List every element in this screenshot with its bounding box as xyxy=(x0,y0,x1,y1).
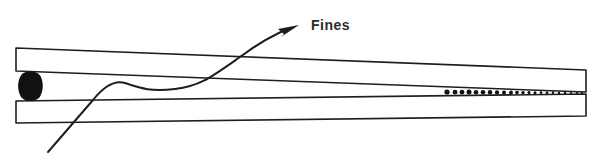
retained-particle xyxy=(18,72,43,101)
upper-plate xyxy=(16,48,586,92)
wedge-filter-diagram xyxy=(0,0,601,157)
arrowhead-icon xyxy=(278,25,299,37)
lower-plate xyxy=(16,94,586,123)
fines-label: Fines xyxy=(311,17,350,33)
flow-arrow-path xyxy=(48,28,290,152)
